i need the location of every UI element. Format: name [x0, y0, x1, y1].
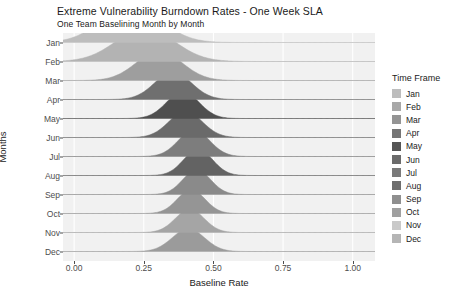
y-tick-mark	[60, 99, 63, 100]
ridge-curve-jan	[63, 33, 375, 43]
legend-swatch-jun	[392, 155, 401, 164]
y-tick-label-nov: Nov	[0, 228, 60, 238]
x-tick-label-1.00: 1.00	[344, 263, 361, 273]
x-tick-label-0.50: 0.50	[205, 263, 222, 273]
chart-subtitle: One Team Baselining Month by Month	[57, 19, 204, 29]
legend-swatch-may	[392, 142, 401, 151]
ridge-curve-may	[63, 92, 375, 119]
legend-label-may: May	[406, 141, 422, 151]
legend-swatch-jul	[392, 168, 401, 177]
y-tick-label-sep: Sep	[0, 190, 60, 200]
legend-item-jun[interactable]: Jun	[392, 153, 440, 166]
legend-label-apr: Apr	[406, 128, 419, 138]
x-tick-mark	[283, 261, 284, 264]
y-tick-mark	[60, 251, 63, 252]
chart-title: Extreme Vulnerability Burndown Rates - O…	[57, 5, 323, 17]
legend-item-sep[interactable]: Sep	[392, 193, 440, 206]
y-axis-label: Months	[0, 131, 8, 162]
legend-item-oct[interactable]: Oct	[392, 206, 440, 219]
legend-label-oct: Oct	[406, 207, 419, 217]
legend-swatch-mar	[392, 115, 401, 124]
y-tick-mark	[60, 118, 63, 119]
legend-item-mar[interactable]: Mar	[392, 113, 440, 126]
y-tick-mark	[60, 137, 63, 138]
x-tick-mark	[353, 261, 354, 264]
legend-swatch-aug	[392, 181, 401, 190]
y-tick-label-dec: Dec	[0, 247, 60, 257]
legend-label-aug: Aug	[406, 181, 421, 191]
y-tick-mark	[60, 232, 63, 233]
legend-label-sep: Sep	[406, 194, 421, 204]
legend-item-may[interactable]: May	[392, 140, 440, 153]
y-tick-label-feb: Feb	[0, 57, 60, 67]
plot-panel	[63, 33, 375, 261]
legend-swatch-dec	[392, 234, 401, 243]
y-tick-label-aug: Aug	[0, 171, 60, 181]
y-tick-mark	[60, 213, 63, 214]
legend-swatch-feb	[392, 102, 401, 111]
legend-label-jan: Jan	[406, 89, 420, 99]
y-tick-label-may: May	[0, 114, 60, 124]
legend-swatch-nov	[392, 221, 401, 230]
y-tick-mark	[60, 42, 63, 43]
y-tick-label-oct: Oct	[0, 209, 60, 219]
legend-item-apr[interactable]: Apr	[392, 127, 440, 140]
y-tick-label-jun: Jun	[0, 133, 60, 143]
legend-item-jan[interactable]: Jan	[392, 87, 440, 100]
x-tick-mark	[74, 261, 75, 264]
legend: Time Frame JanFebMarAprMayJunJulAugSepOc…	[392, 73, 440, 245]
legend-item-nov[interactable]: Nov	[392, 219, 440, 232]
legend-swatch-apr	[392, 129, 401, 138]
legend-swatch-oct	[392, 208, 401, 217]
ridge-series	[63, 33, 375, 252]
legend-item-dec[interactable]: Dec	[392, 232, 440, 245]
legend-swatch-sep	[392, 195, 401, 204]
legend-entries: JanFebMarAprMayJunJulAugSepOctNovDec	[392, 87, 440, 245]
legend-item-aug[interactable]: Aug	[392, 179, 440, 192]
gridlines	[63, 33, 375, 261]
x-tick-mark	[213, 261, 214, 264]
legend-label-nov: Nov	[406, 220, 421, 230]
y-tick-mark	[60, 175, 63, 176]
legend-swatch-jan	[392, 89, 401, 98]
x-tick-label-0.75: 0.75	[275, 263, 292, 273]
x-tick-label-0.25: 0.25	[136, 263, 153, 273]
y-tick-mark	[60, 61, 63, 62]
x-axis-label: Baseline Rate	[63, 277, 375, 288]
legend-label-jul: Jul	[406, 168, 417, 178]
chart-root: Extreme Vulnerability Burndown Rates - O…	[0, 0, 464, 300]
legend-label-dec: Dec	[406, 234, 421, 244]
y-tick-label-mar: Mar	[0, 76, 60, 86]
legend-title: Time Frame	[392, 73, 440, 83]
y-tick-label-apr: Apr	[0, 95, 60, 105]
ridge-curve-jun	[63, 111, 375, 137]
x-tick-mark	[144, 261, 145, 264]
legend-label-jun: Jun	[406, 155, 420, 165]
y-tick-mark	[60, 194, 63, 195]
legend-label-feb: Feb	[406, 102, 421, 112]
y-tick-label-jan: Jan	[0, 38, 60, 48]
ridgeline-plot	[63, 33, 375, 261]
legend-label-mar: Mar	[406, 115, 421, 125]
x-tick-label-0.00: 0.00	[66, 263, 83, 273]
y-tick-mark	[60, 80, 63, 81]
ridge-curve-apr	[63, 72, 375, 100]
y-tick-mark	[60, 156, 63, 157]
legend-item-jul[interactable]: Jul	[392, 166, 440, 179]
legend-item-feb[interactable]: Feb	[392, 100, 440, 113]
y-tick-label-jul: Jul	[0, 152, 60, 162]
